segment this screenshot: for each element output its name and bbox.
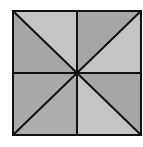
pinwheel-square-diagram xyxy=(0,0,143,147)
